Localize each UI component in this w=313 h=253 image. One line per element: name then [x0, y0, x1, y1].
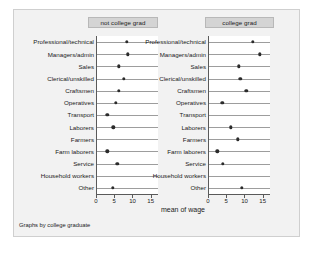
x-axis-line-right: [208, 194, 270, 195]
data-point: [251, 40, 254, 43]
data-point: [122, 77, 125, 80]
x-axis-tick-label: 0: [89, 198, 103, 204]
y-axis-label: Farmers: [183, 136, 206, 143]
data-point: [114, 101, 117, 104]
panel-plot-area-college-grad: [208, 36, 270, 194]
y-axis-label: Operatives: [64, 99, 94, 106]
y-axis-label: Laborers: [69, 124, 94, 131]
figure-footnote: Graphs by college graduate: [19, 222, 90, 228]
data-point: [229, 125, 232, 128]
x-axis-line-left: [96, 194, 158, 195]
category-rule: [209, 164, 270, 165]
data-point: [239, 77, 242, 80]
category-rule: [209, 91, 270, 92]
data-point: [116, 162, 119, 165]
data-point: [117, 65, 120, 68]
category-rule: [209, 139, 270, 140]
y-axis-label: Household workers: [153, 172, 206, 179]
x-axis-tick-label: 10: [125, 198, 139, 204]
y-axis-label: Professional/technical: [145, 38, 206, 45]
y-axis-label: Household workers: [41, 172, 94, 179]
x-axis-tick-label: 5: [219, 198, 233, 204]
data-point: [240, 186, 243, 189]
y-axis-label: Craftsmen: [65, 87, 94, 94]
y-axis-label: Farm laborers: [167, 148, 206, 155]
y-axis-label: Other: [190, 184, 206, 191]
y-axis-label: Managers/admin: [48, 51, 94, 58]
data-point: [258, 53, 261, 56]
data-point: [106, 113, 109, 116]
y-axis-label: Transport: [68, 111, 94, 118]
y-axis-label: Clerical/unskilled: [47, 75, 94, 82]
y-axis-label: Service: [185, 160, 206, 167]
y-axis-label: Professional/technical: [33, 38, 94, 45]
category-rule: [209, 103, 270, 104]
panel-title-not-college-grad: not college grad: [88, 17, 158, 28]
x-axis-tick-label: 10: [237, 198, 251, 204]
data-point: [117, 89, 120, 92]
y-axis-labels-right: Professional/technicalManagers/adminSale…: [128, 36, 206, 194]
data-point: [221, 162, 224, 165]
y-axis-label: Managers/admin: [160, 51, 206, 58]
y-axis-label: Craftsmen: [177, 87, 206, 94]
x-axis-tick-label: 5: [107, 198, 121, 204]
category-rule: [209, 42, 270, 43]
y-axis-label: Other: [78, 184, 94, 191]
category-rule: [209, 115, 270, 116]
category-rule: [209, 127, 270, 128]
data-point: [112, 125, 115, 128]
y-axis-label: Service: [73, 160, 94, 167]
x-axis-tick-label: 15: [144, 198, 158, 204]
data-point: [216, 150, 219, 153]
x-axis-title: mean of wage: [96, 206, 270, 213]
y-axis-label: Sales: [78, 63, 94, 70]
y-axis-label: Clerical/unskilled: [159, 75, 206, 82]
data-point: [106, 150, 109, 153]
y-axis-label: Farmers: [71, 136, 94, 143]
x-axis-tick-label: 15: [256, 198, 270, 204]
y-axis-label: Farm laborers: [55, 148, 94, 155]
y-axis-label: Transport: [180, 111, 206, 118]
data-point: [221, 101, 224, 104]
stata-graph-figure: not college grad college grad Profession…: [0, 0, 313, 253]
x-axis-tick-label: 0: [201, 198, 215, 204]
data-point: [244, 89, 247, 92]
y-axis-label: Laborers: [181, 124, 206, 131]
panel-title-college-grad: college grad: [205, 17, 274, 28]
category-rule: [209, 176, 270, 177]
y-axis-label: Operatives: [176, 99, 206, 106]
data-point: [111, 186, 114, 189]
y-axis-label: Sales: [190, 63, 206, 70]
y-axis-labels-left: Professional/technicalManagers/adminSale…: [16, 36, 94, 194]
data-point: [237, 65, 240, 68]
data-point: [236, 138, 239, 141]
